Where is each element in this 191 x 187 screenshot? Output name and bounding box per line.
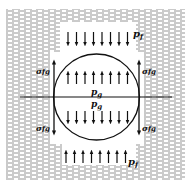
sigma-left-top-label: σfg [36,66,50,76]
sigma-right-top-label: σfg [142,66,156,76]
sigma-right-bottom-label: σfg [142,123,156,133]
diagram-canvas: pf pg pg pf σfg σfg σfg σfg [0,0,191,187]
sigma-left-bottom-label: σfg [36,123,50,133]
